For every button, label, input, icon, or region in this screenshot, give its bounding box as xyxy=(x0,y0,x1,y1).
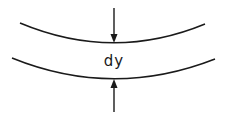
top-dimension-arrow xyxy=(111,8,118,43)
arrow-up-icon xyxy=(111,79,118,88)
arrow-down-icon xyxy=(111,34,118,43)
upper-curved-surface xyxy=(20,23,205,43)
diagram-canvas: dy xyxy=(0,0,229,119)
bottom-dimension-arrow xyxy=(111,79,118,112)
dimension-label: dy xyxy=(104,52,124,70)
